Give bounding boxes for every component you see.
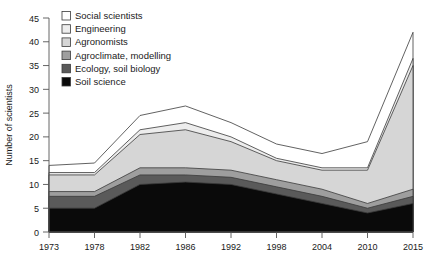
legend-swatch-social-scientists (62, 12, 71, 21)
y-tick-label: 20 (29, 132, 39, 142)
legend-swatch-ecology-soil-biology (62, 64, 71, 73)
y-tick-label: 40 (29, 37, 39, 47)
x-tick-label: 1986 (175, 242, 195, 252)
legend-swatch-agronomists (62, 38, 71, 47)
legend-label-agroclimate-modelling: Agroclimate, modelling (75, 50, 171, 61)
legend-swatch-soil-science (62, 78, 71, 87)
stacked-area-chart: 051015202530354045 197319781982198619921… (0, 0, 424, 267)
y-tick-label: 0 (34, 228, 39, 238)
x-tick-label: 1973 (39, 242, 59, 252)
y-tick-label: 15 (29, 156, 39, 166)
y-tick-label: 35 (29, 61, 39, 71)
x-tick-label: 2015 (403, 242, 423, 252)
x-tick-label: 2010 (357, 242, 377, 252)
legend-label-engineering: Engineering (75, 23, 126, 34)
legend-label-social-scientists: Social scientists (75, 10, 143, 21)
y-tick-label: 10 (29, 180, 39, 190)
legend-label-ecology-soil-biology: Ecology, soil biology (75, 63, 161, 74)
x-tick-label: 1978 (84, 242, 104, 252)
x-tick-label: 2004 (312, 242, 332, 252)
chart-figure: 051015202530354045 197319781982198619921… (0, 0, 424, 267)
x-tick-label: 1998 (266, 242, 286, 252)
y-axis-title: Number of scientists (4, 84, 14, 166)
y-tick-label: 5 (34, 204, 39, 214)
legend-label-agronomists: Agronomists (75, 36, 128, 47)
x-tick-label: 1982 (130, 242, 150, 252)
legend-swatch-agroclimate-modelling (62, 51, 71, 60)
legend-swatch-engineering (62, 25, 71, 34)
y-tick-label: 25 (29, 109, 39, 119)
legend-label-soil-science: Soil science (75, 76, 126, 87)
y-tick-label: 45 (29, 14, 39, 24)
x-tick-label: 1992 (221, 242, 241, 252)
y-tick-label: 30 (29, 85, 39, 95)
